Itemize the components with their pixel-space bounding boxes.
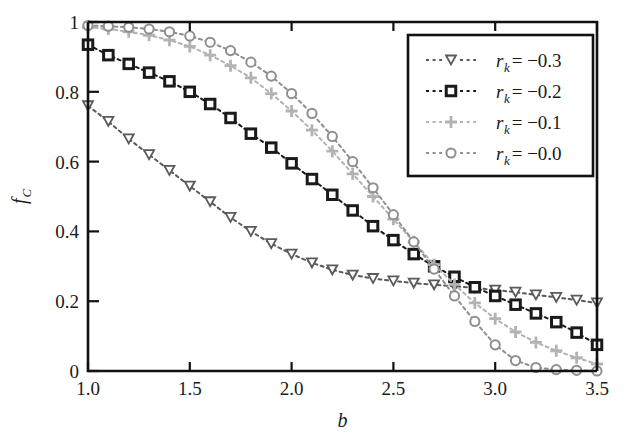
marker-circle: [287, 89, 296, 98]
marker-circle: [124, 23, 133, 32]
marker-plus: [225, 60, 237, 72]
marker-square: [470, 282, 480, 292]
marker-triangle-down: [327, 265, 337, 274]
marker-circle: [267, 71, 276, 80]
marker-circle: [328, 132, 337, 141]
marker-square: [572, 328, 582, 338]
marker-square: [104, 50, 114, 60]
marker-circle: [450, 291, 459, 300]
marker-plus: [530, 336, 542, 348]
marker-triangle-down: [348, 271, 358, 280]
marker-circle: [511, 356, 520, 365]
marker-square: [389, 235, 399, 245]
marker-square: [490, 291, 500, 301]
marker-square: [246, 129, 256, 139]
marker-plus: [184, 40, 196, 52]
marker-square: [266, 143, 276, 153]
marker-plus: [510, 326, 522, 338]
svg-text:fC: fC: [8, 189, 34, 205]
marker-triangle-down: [103, 117, 113, 126]
marker-circle: [430, 264, 439, 273]
x-tick-label: 1.5: [178, 378, 202, 399]
y-tick-label: 0.8: [55, 82, 79, 103]
marker-plus: [571, 352, 583, 364]
marker-triangle-down: [368, 274, 378, 283]
marker-plus: [204, 49, 216, 61]
marker-circle: [246, 58, 255, 67]
marker-triangle-down: [572, 296, 582, 305]
x-axis-label: b: [338, 409, 348, 431]
marker-triangle-down: [551, 293, 561, 302]
marker-triangle-down: [307, 258, 317, 267]
marker-square: [409, 249, 419, 259]
marker-triangle-down: [429, 280, 439, 289]
marker-circle: [165, 27, 174, 36]
marker-circle: [409, 237, 418, 246]
y-axis-label: fC: [8, 189, 34, 205]
legend-layer: rk= −0.3rk= −0.2rk= −0.1rk= −0.0: [408, 35, 593, 176]
marker-square: [552, 317, 562, 327]
marker-square: [165, 77, 175, 87]
x-tick-label: 3.5: [585, 378, 609, 399]
x-tick-label: 2.0: [280, 378, 304, 399]
marker-circle: [491, 340, 500, 349]
marker-square: [511, 300, 521, 310]
marker-circle: [389, 210, 398, 219]
x-tick-label: 2.5: [382, 378, 406, 399]
marker-square: [328, 190, 338, 200]
marker-circle: [348, 157, 357, 166]
marker-square: [348, 206, 358, 216]
y-tick-label: 0.6: [55, 152, 79, 173]
marker-square: [226, 113, 236, 123]
marker-circle: [226, 46, 235, 55]
marker-circle: [552, 365, 561, 374]
marker-square: [446, 86, 456, 96]
marker-square: [144, 68, 154, 78]
chart-svg: 1.01.52.02.53.03.500.20.40.60.81bfC rk= …: [0, 0, 633, 440]
marker-circle: [446, 148, 455, 157]
marker-plus: [550, 345, 562, 357]
marker-circle: [185, 31, 194, 40]
y-tick-label: 0: [70, 361, 80, 382]
marker-circle: [368, 183, 377, 192]
marker-triangle-down: [124, 134, 134, 143]
marker-square: [205, 99, 215, 109]
marker-square: [307, 174, 317, 184]
marker-circle: [206, 38, 215, 47]
marker-triangle-down: [287, 250, 297, 259]
marker-square: [185, 87, 195, 97]
marker-triangle-down: [266, 239, 276, 248]
chart-figure: 1.01.52.02.53.03.500.20.40.60.81bfC rk= …: [0, 0, 633, 440]
marker-triangle-down: [531, 290, 541, 299]
marker-square: [531, 309, 541, 319]
marker-circle: [470, 317, 479, 326]
marker-circle: [144, 24, 153, 33]
y-tick-label: 0.4: [55, 221, 79, 242]
x-tick-label: 1.0: [76, 378, 100, 399]
marker-square: [287, 159, 297, 169]
marker-triangle-down: [409, 279, 419, 288]
marker-circle: [307, 109, 316, 118]
y-tick-label: 1: [70, 12, 80, 33]
marker-triangle-down: [246, 227, 256, 236]
marker-square: [368, 221, 378, 231]
marker-square: [124, 59, 134, 69]
y-tick-label: 0.2: [55, 291, 79, 312]
marker-triangle-down: [511, 288, 521, 297]
x-tick-label: 3.0: [483, 378, 507, 399]
marker-triangle-down: [388, 276, 398, 285]
